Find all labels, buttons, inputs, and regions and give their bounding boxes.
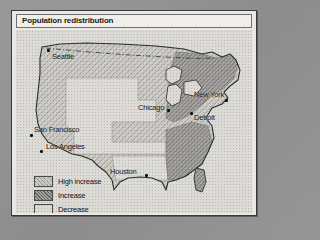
legend-label-decrease: Decrease	[58, 205, 89, 213]
city-dot-detroit	[190, 112, 193, 115]
legend-label-high-increase: High increase	[58, 177, 101, 186]
region-increase-southeast	[166, 122, 212, 180]
city-dot-seattle	[47, 49, 50, 52]
city-label-new-york: New York	[194, 90, 224, 99]
legend-swatch-high-increase	[34, 176, 53, 187]
legend-label-increase: Increase	[58, 191, 85, 200]
florida-peninsula	[194, 168, 206, 192]
map-legend: High increase Increase Decrease	[34, 176, 120, 213]
city-dot-san-francisco	[30, 134, 33, 137]
city-dot-new-york	[225, 99, 228, 102]
legend-item-decrease: Decrease	[34, 204, 120, 213]
figure-title: Population redistribution	[22, 16, 113, 25]
city-dot-los-angeles	[40, 150, 43, 153]
map-area: Seattle San Francisco Los Angeles Chicag…	[16, 30, 252, 213]
scanned-page-background: Population redistribution	[0, 0, 270, 227]
city-label-san-francisco: San Francisco	[34, 125, 79, 134]
figure-panel: Population redistribution	[11, 10, 257, 216]
legend-swatch-increase	[34, 190, 53, 201]
city-label-seattle: Seattle	[52, 52, 74, 61]
figure-title-bar: Population redistribution	[16, 14, 252, 28]
city-label-houston: Houston	[110, 167, 137, 176]
city-dot-chicago	[167, 109, 170, 112]
city-label-los-angeles: Los Angeles	[46, 142, 85, 151]
city-label-detroit: Detroit	[194, 113, 215, 122]
city-label-chicago: Chicago	[138, 103, 164, 112]
legend-item-increase: Increase	[34, 190, 120, 203]
legend-item-high-increase: High increase	[34, 176, 120, 189]
city-dot-houston	[145, 174, 148, 177]
legend-swatch-decrease	[34, 204, 53, 213]
